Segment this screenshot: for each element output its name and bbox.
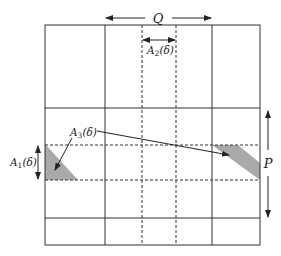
a3-pointer-right [97,131,229,155]
label-p: P [263,156,273,171]
label-a1: A1(δ) [9,156,37,170]
shaded-region-right [212,145,260,180]
label-a2: A2(δ) [146,44,174,58]
label-q: Q [153,11,164,26]
label-a3: A3(δ) [69,126,97,140]
shaded-region-left [45,144,78,180]
grid-diagram: Q A2(δ) P A1(δ) A3(δ) [0,0,281,256]
